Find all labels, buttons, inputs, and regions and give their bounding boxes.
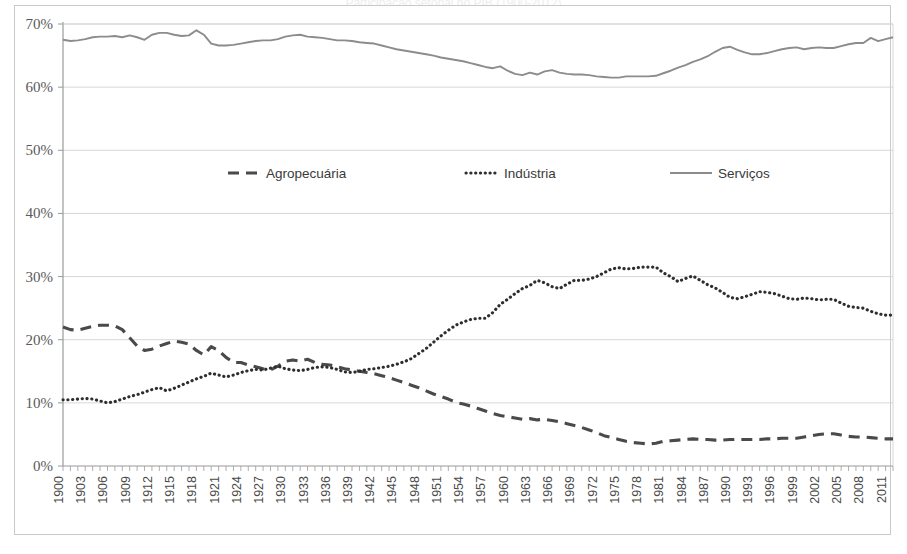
x-tick-label: 1903 <box>74 476 88 504</box>
x-tick-label: 2008 <box>852 476 866 504</box>
x-tick-label: 2011 <box>875 476 889 503</box>
chart-figure: Participação setorial no PIB (1900-2012)… <box>0 0 907 554</box>
x-tick-label: 1900 <box>52 476 66 504</box>
x-tick-label: 1915 <box>163 476 177 504</box>
x-axis-ticks <box>63 466 893 471</box>
x-tick-label: 1921 <box>208 476 222 504</box>
x-tick-label: 1951 <box>430 476 444 504</box>
x-tick-label: 1978 <box>630 476 644 504</box>
y-tick-label: 50% <box>26 142 54 158</box>
x-tick-label: 1939 <box>341 476 355 504</box>
x-tick-label: 1960 <box>497 476 511 504</box>
x-tick-label: 1936 <box>319 476 333 504</box>
line-chart-canvas: 0%10%20%30%40%50%60%70%19001903190619091… <box>0 0 907 554</box>
y-tick-label: 20% <box>26 332 54 348</box>
x-tick-label: 1963 <box>519 476 533 504</box>
series-line-agropecuria <box>63 325 893 444</box>
y-tick-label: 40% <box>26 205 54 221</box>
y-tick-label: 60% <box>26 79 54 95</box>
series-line-indstria <box>63 267 893 403</box>
x-tick-label: 1981 <box>652 476 666 504</box>
x-tick-label: 1999 <box>786 476 800 504</box>
x-tick-label: 1957 <box>474 476 488 504</box>
x-tick-label: 1927 <box>252 476 266 504</box>
x-tick-label: 1996 <box>763 476 777 504</box>
x-tick-label: 1972 <box>586 476 600 504</box>
x-tick-label: 1912 <box>141 476 155 504</box>
x-tick-label: 1909 <box>119 476 133 504</box>
y-axis-tick-labels: 0%10%20%30%40%50%60%70% <box>26 16 64 474</box>
x-tick-label: 1954 <box>452 476 466 504</box>
x-tick-label: 1975 <box>608 476 622 504</box>
x-tick-label: 1969 <box>563 476 577 504</box>
legend-label-servios: Serviços <box>718 166 770 181</box>
x-tick-label: 1984 <box>675 476 689 504</box>
x-tick-label: 1924 <box>230 476 244 504</box>
x-tick-label: 2002 <box>808 476 822 504</box>
y-tick-label: 0% <box>33 458 53 474</box>
y-tick-label: 70% <box>26 16 54 32</box>
x-tick-label: 1948 <box>408 476 422 504</box>
gridlines <box>63 24 893 466</box>
x-tick-label: 1966 <box>541 476 555 504</box>
x-tick-label: 1942 <box>363 476 377 504</box>
y-tick-label: 10% <box>26 395 54 411</box>
x-tick-label: 1933 <box>297 476 311 504</box>
x-tick-label: 1993 <box>741 476 755 504</box>
y-tick-label: 30% <box>26 269 54 285</box>
x-tick-label: 1990 <box>719 476 733 504</box>
x-tick-label: 1945 <box>385 476 399 504</box>
x-axis-tick-labels: 1900190319061909191219151918192119241927… <box>52 476 889 504</box>
legend-label-agropecuria: Agropecuária <box>266 166 347 181</box>
x-tick-label: 2005 <box>830 476 844 504</box>
x-tick-label: 1918 <box>185 476 199 504</box>
series-line-servios <box>63 30 893 77</box>
x-tick-label: 1906 <box>96 476 110 504</box>
legend-label-indstria: Indústria <box>504 166 556 181</box>
x-tick-label: 1987 <box>697 476 711 504</box>
chart-legend: AgropecuáriaIndústriaServiços <box>228 166 770 181</box>
x-tick-label: 1930 <box>274 476 288 504</box>
series-group <box>63 30 893 444</box>
